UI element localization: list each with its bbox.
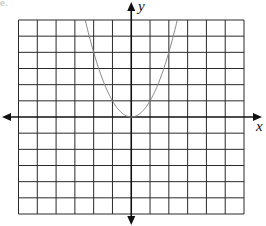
y-axis-label: y <box>138 0 145 15</box>
coordinate-plane <box>0 0 266 226</box>
x-axis-label: x <box>256 118 263 135</box>
x-axis-left-arrow-icon <box>2 113 11 121</box>
y-axis-down-arrow-icon <box>127 216 135 225</box>
y-axis-up-arrow-icon <box>127 2 135 11</box>
axes <box>2 2 262 225</box>
